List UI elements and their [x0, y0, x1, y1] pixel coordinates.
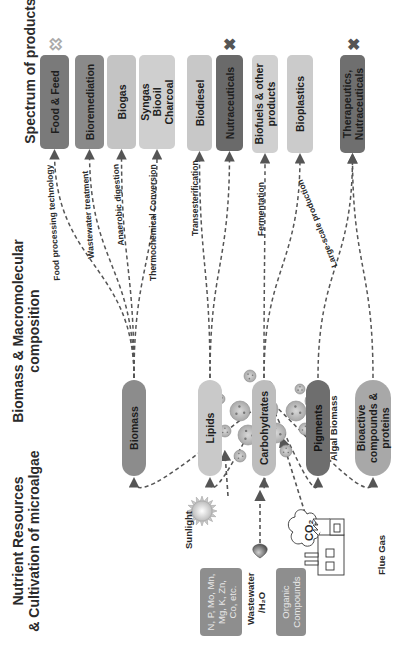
- co2-label: CO₂: [304, 520, 315, 541]
- product-box: Biofuels & other products: [252, 55, 278, 153]
- water-label: /H₂O: [256, 592, 267, 613]
- heading-nutrient-resources: Nutrient Resources & Cultivation of micr…: [10, 436, 42, 646]
- wastewater-label: Wastewater: [245, 573, 256, 625]
- minerals-box: N, P, Mo, Mn, Mg, K, Zn, Co, etc.: [200, 568, 242, 636]
- product-box: Food & Feed: [40, 55, 69, 149]
- composition-pill: Lipids: [198, 380, 222, 476]
- algal-cell-icon: [230, 401, 250, 421]
- composition-pill: Bioactive compounds & proteins: [355, 380, 391, 476]
- product-arrow: [210, 154, 230, 378]
- algal-cell-icon: [295, 384, 305, 394]
- product-branches: [55, 152, 374, 378]
- solid-x-icon: ✖: [223, 37, 236, 53]
- composition-pill: Carbohydrates: [252, 380, 276, 476]
- outline-x-icon: ✖: [49, 37, 62, 53]
- product-box: Therapeutics, Nutraceuticals: [340, 55, 365, 153]
- process-label: Transesterification: [190, 160, 200, 236]
- product-box: Syngas Biooil Charcoal: [139, 55, 175, 149]
- solid-x-icon: ✖: [347, 37, 360, 53]
- product-box: Bioplastics: [287, 55, 313, 153]
- product-arrow: [318, 156, 353, 378]
- product-box: Biogas: [107, 55, 136, 149]
- diagram-canvas: Nutrient Resources & Cultivation of micr…: [0, 0, 405, 661]
- process-label: Thermochemical Conversion: [148, 164, 158, 281]
- product-box: Biodiesel: [187, 55, 212, 151]
- flue-gas-label: Flue Gas: [376, 535, 387, 575]
- process-label: Fermentation: [256, 182, 266, 236]
- product-box: Bioremediation: [75, 55, 104, 149]
- product-box: Nutraceuticals: [216, 55, 243, 151]
- heading-products: Spectrum of products: [22, 0, 38, 161]
- algal-cell-icon: [244, 370, 256, 382]
- algal-cell-icon: [286, 401, 306, 421]
- composition-pill: Biomass: [122, 380, 146, 476]
- organic-compounds-box: Organic Compounds: [276, 568, 306, 636]
- algal-cell-icon: [280, 445, 292, 457]
- product-arrow: [264, 156, 300, 378]
- heading-composition: Biomass & Macromolecular composition: [10, 226, 42, 436]
- product-arrow: [122, 152, 135, 378]
- product-arrow: [353, 156, 374, 378]
- sunlight-label: Sunlight: [183, 511, 194, 549]
- product-arrow: [200, 154, 211, 378]
- water-drop-icon: [253, 544, 267, 558]
- algal-cell-icon: [234, 450, 246, 462]
- composition-pill: Pigments: [306, 380, 330, 476]
